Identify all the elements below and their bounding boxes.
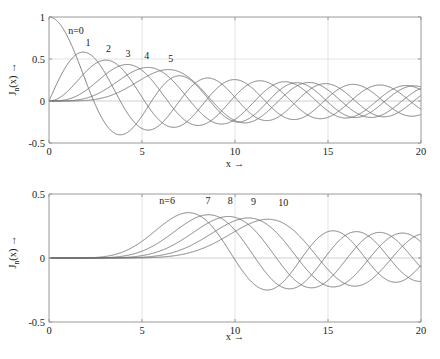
series-annotation: 2 bbox=[106, 43, 111, 54]
x-tick-label: 10 bbox=[230, 146, 241, 157]
y-tick-label: 0 bbox=[40, 253, 45, 264]
x-tick-label: 20 bbox=[416, 146, 427, 157]
x-tick-label: 0 bbox=[46, 146, 51, 157]
x-tick-label: 15 bbox=[323, 146, 334, 157]
x-axis-title-top: x → bbox=[226, 158, 244, 169]
series-annotation: 5 bbox=[168, 53, 173, 64]
x-tick-label: 5 bbox=[139, 146, 144, 157]
y-tick-labels-bottom: -0.500.5 bbox=[28, 189, 45, 328]
svg-text:Jn(x) →: Jn(x) → bbox=[7, 62, 21, 95]
y-tick-label: 0.5 bbox=[32, 189, 45, 200]
x-tick-labels-top: 05101520 bbox=[46, 146, 426, 157]
series-annotation: 8 bbox=[228, 195, 233, 206]
series-annotation: n=0 bbox=[68, 25, 84, 36]
series-annotations-bottom: n=678910 bbox=[159, 195, 288, 209]
x-tick-label: 15 bbox=[323, 325, 334, 336]
y-axis-title-bottom: Jn(x) → bbox=[7, 235, 21, 268]
series-annotation: 9 bbox=[251, 196, 256, 207]
y-tick-labels-top: -0.500.51 bbox=[28, 12, 45, 149]
bessel-function-figure: 05101520 -0.500.51 n=012345 x → Jn(x) → … bbox=[0, 0, 440, 359]
series-annotations-top: n=012345 bbox=[68, 25, 173, 64]
series-annotation: 3 bbox=[126, 48, 131, 59]
x-axis-title-bottom: x → bbox=[226, 331, 244, 342]
series-annotation: 10 bbox=[278, 197, 288, 208]
series-annotation: 4 bbox=[144, 50, 149, 61]
y-tick-label: -0.5 bbox=[28, 317, 45, 328]
y-tick-label: 0 bbox=[40, 96, 45, 107]
series-annotation: 7 bbox=[206, 195, 211, 206]
y-tick-label: -0.5 bbox=[28, 138, 45, 149]
y-tick-label: 0.5 bbox=[32, 54, 45, 65]
chart-panel-bottom: 05101520 -0.500.5 n=678910 x → Jn(x) → bbox=[0, 180, 440, 359]
y-axis-title-suffix-top: (x) → bbox=[7, 62, 19, 87]
svg-text:Jn(x) →: Jn(x) → bbox=[7, 235, 21, 268]
x-tick-label: 5 bbox=[139, 325, 144, 336]
x-tick-label: 0 bbox=[46, 325, 51, 336]
chart-svg-bottom: 05101520 -0.500.5 n=678910 x → Jn(x) → bbox=[0, 180, 440, 359]
chart-svg-top: 05101520 -0.500.51 n=012345 x → Jn(x) → bbox=[0, 0, 440, 179]
y-axis-title-suffix-bottom: (x) → bbox=[7, 235, 19, 260]
x-tick-label: 20 bbox=[416, 325, 427, 336]
series-annotation: 1 bbox=[86, 37, 91, 48]
series-annotation: n=6 bbox=[159, 195, 175, 206]
y-tick-label: 1 bbox=[40, 12, 45, 23]
chart-panel-top: 05101520 -0.500.51 n=012345 x → Jn(x) → bbox=[0, 0, 440, 179]
y-axis-title-top: Jn(x) → bbox=[7, 62, 21, 95]
